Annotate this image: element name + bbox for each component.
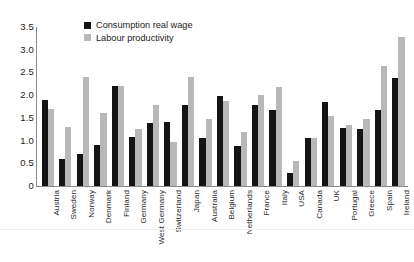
bar-group <box>144 27 162 186</box>
x-label-cell: Denmark <box>92 188 110 260</box>
x-label-cell: Austria <box>39 188 57 260</box>
bar-group <box>284 27 302 186</box>
bar-group <box>249 27 267 186</box>
bar-group <box>127 27 145 186</box>
legend-label: Labour productivity <box>96 32 174 45</box>
bar-group <box>74 27 92 186</box>
x-label-cell: Portugal <box>337 188 355 260</box>
bar-plot-area <box>37 27 408 186</box>
bar <box>65 127 71 186</box>
x-label-cell: Belgium <box>214 188 232 260</box>
bar-group <box>337 27 355 186</box>
x-label-cell: Switzerland <box>162 188 180 260</box>
x-label-cell: USA <box>284 188 302 260</box>
bar <box>398 37 404 186</box>
legend-label: Consumption real wage <box>96 19 193 32</box>
chart-legend: Consumption real wageLabour productivity <box>84 19 193 44</box>
bar <box>188 77 194 186</box>
y-tick-label: 2.5 <box>0 68 34 78</box>
x-axis-label: Ireland <box>402 190 411 215</box>
bar <box>100 113 106 186</box>
x-label-cell: Japan <box>179 188 197 260</box>
bar <box>170 142 176 186</box>
bar-group <box>267 27 285 186</box>
bar <box>258 95 264 186</box>
bar-group <box>302 27 320 186</box>
legend-swatch-icon-wage <box>84 22 91 29</box>
x-label-cell: Greece <box>355 188 373 260</box>
x-label-cell: Spain <box>372 188 390 260</box>
x-label-cell: Italy <box>267 188 285 260</box>
bar <box>328 116 334 186</box>
y-tick-label: 1.5 <box>0 113 34 123</box>
legend-entry-wage: Consumption real wage <box>84 19 193 32</box>
bar <box>153 105 159 186</box>
y-tick-label: 1.0 <box>0 136 34 146</box>
bar <box>363 119 369 186</box>
y-tick-label: 2.0 <box>0 90 34 100</box>
bar <box>276 87 282 186</box>
x-label-cell: West Germany <box>144 188 162 260</box>
x-axis-line <box>36 186 408 187</box>
bar <box>293 161 299 186</box>
bar <box>206 119 212 186</box>
bar-group <box>179 27 197 186</box>
bar <box>48 109 54 186</box>
bar-group <box>109 27 127 186</box>
cropped-title-remnant <box>8 0 228 6</box>
y-tick-label: 0 <box>0 181 34 191</box>
y-tick-label: 3.5 <box>0 22 34 32</box>
x-label-cell: Canada <box>302 188 320 260</box>
bar-group <box>390 27 408 186</box>
bar <box>83 77 89 186</box>
x-label-cell: Finland <box>109 188 127 260</box>
bar-chart-figure: 3.53.02.52.01.51.00.50 AustriaSwedenNorw… <box>0 0 414 262</box>
x-label-cell: Germany <box>127 188 145 260</box>
bar-group <box>372 27 390 186</box>
bar-group <box>39 27 57 186</box>
bar <box>223 101 229 186</box>
bar-group <box>320 27 338 186</box>
x-label-cell: Australia <box>197 188 215 260</box>
y-tick-label: 3.0 <box>0 45 34 55</box>
legend-swatch-icon-prod <box>84 34 91 41</box>
page-divider-rule <box>0 229 414 230</box>
bar <box>135 129 141 186</box>
x-label-cell: France <box>249 188 267 260</box>
bar <box>241 132 247 186</box>
x-label-cell: Sweden <box>57 188 75 260</box>
bar-group <box>162 27 180 186</box>
x-label-cell: Norway <box>74 188 92 260</box>
x-axis-category-labels: AustriaSwedenNorwayDenmarkFinlandGermany… <box>37 188 408 260</box>
x-label-cell: Ireland <box>390 188 408 260</box>
y-tick-label: 0.5 <box>0 159 34 169</box>
bar <box>381 66 387 186</box>
y-axis-tick-labels: 3.53.02.52.01.51.00.50 <box>0 0 34 262</box>
x-label-cell: UK <box>320 188 338 260</box>
legend-entry-prod: Labour productivity <box>84 32 193 45</box>
bar <box>118 86 124 186</box>
bar <box>346 125 352 186</box>
bar-group <box>57 27 75 186</box>
bar-group <box>232 27 250 186</box>
bar <box>311 138 317 186</box>
bar-group <box>214 27 232 186</box>
bar-group <box>197 27 215 186</box>
bar-group <box>355 27 373 186</box>
x-label-cell: Netherlands <box>232 188 250 260</box>
bar-group <box>92 27 110 186</box>
